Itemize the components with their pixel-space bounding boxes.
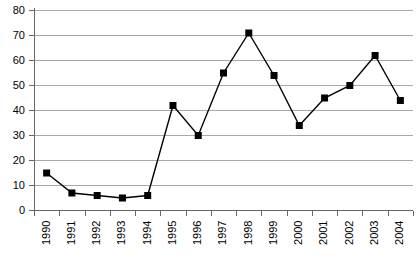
x-tick-label-1992: 1992 [90, 221, 102, 245]
data-point-1990 [43, 170, 50, 177]
x-tick-label-2004: 2004 [393, 221, 405, 245]
data-series-group [43, 30, 404, 202]
data-point-1995 [169, 102, 176, 109]
x-tick-label-1996: 1996 [191, 221, 203, 245]
y-tick-label-60: 60 [13, 54, 25, 66]
line-chart: 80 70 60 50 40 30 20 10 0 19901991199219… [0, 0, 419, 258]
x-tick-label-1997: 1997 [216, 221, 228, 245]
y-tick-label-20: 20 [13, 154, 25, 166]
data-point-1998 [245, 30, 252, 37]
x-tick-label-2000: 2000 [292, 221, 304, 245]
y-tick-label-10: 10 [13, 179, 25, 191]
y-tick-label-0: 0 [19, 204, 25, 216]
data-point-1992 [94, 192, 101, 199]
data-point-1994 [144, 192, 151, 199]
x-tick-label-2002: 2002 [343, 221, 355, 245]
data-point-2004 [397, 97, 404, 104]
x-tick-label-2001: 2001 [317, 221, 329, 245]
y-tick-label-70: 70 [13, 29, 25, 41]
y-axis: 80 70 60 50 40 30 20 10 0 [13, 4, 35, 216]
gridlines-group [34, 11, 413, 186]
y-tick-label-30: 30 [13, 129, 25, 141]
data-point-2002 [346, 82, 353, 89]
x-tickmarks-group [35, 211, 414, 216]
series-markers-group [43, 30, 404, 202]
data-point-1999 [271, 72, 278, 79]
x-tick-labels-group: 1990199119921993199419951996199719981999… [40, 221, 406, 245]
y-tick-label-40: 40 [13, 104, 25, 116]
x-tick-label-1995: 1995 [166, 221, 178, 245]
y-tick-label-80: 80 [13, 4, 25, 16]
y-tick-label-50: 50 [13, 79, 25, 91]
x-tick-label-1999: 1999 [267, 221, 279, 245]
x-axis: 1990199119921993199419951996199719981999… [34, 211, 414, 245]
data-point-2001 [321, 95, 328, 102]
x-tick-label-2003: 2003 [368, 221, 380, 245]
x-tick-label-1998: 1998 [242, 221, 254, 245]
data-point-2003 [372, 52, 379, 59]
x-tick-label-1990: 1990 [40, 221, 52, 245]
data-point-1993 [119, 195, 126, 202]
x-tick-label-1994: 1994 [141, 221, 153, 245]
x-tick-label-1993: 1993 [115, 221, 127, 245]
data-point-2000 [296, 122, 303, 129]
chart-canvas: 80 70 60 50 40 30 20 10 0 19901991199219… [0, 0, 419, 258]
data-point-1996 [195, 132, 202, 139]
data-point-1991 [68, 190, 75, 197]
data-point-1997 [220, 70, 227, 77]
x-tick-label-1991: 1991 [65, 221, 77, 245]
series-line [47, 33, 401, 198]
